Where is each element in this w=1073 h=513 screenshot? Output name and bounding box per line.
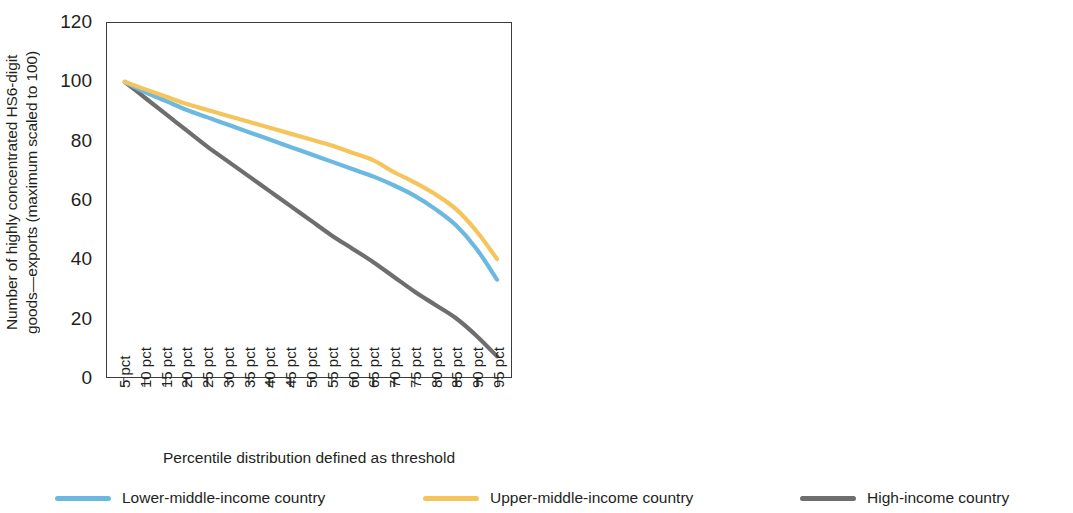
- y-axis-tick-label: 120: [50, 11, 92, 33]
- panel-exports: Number of highly concentrated HS6-digit …: [0, 0, 535, 470]
- legend-item-lower-middle-income: Lower-middle-income country: [55, 486, 325, 510]
- x-axis-tick-label: 10 pct: [136, 347, 153, 388]
- x-axis-tick-label: 55 pct: [323, 347, 340, 388]
- x-axis-tick-label: 15 pct: [157, 347, 174, 388]
- line-series: [125, 82, 497, 356]
- legend-item-high-income: High-income country: [800, 486, 1009, 510]
- y-axis-tick-label: 100: [50, 70, 92, 92]
- x-axis-tick-label: 50 pct: [303, 347, 320, 388]
- x-axis-tick-label: 35 pct: [240, 347, 257, 388]
- y-axis-label-exports: Number of highly concentrated HS6-digit …: [2, 0, 42, 385]
- x-axis-tick-label: 60 pct: [344, 347, 361, 388]
- legend-item-upper-middle-income: Upper-middle-income country: [423, 486, 693, 510]
- legend-label-upper-middle-income: Upper-middle-income country: [490, 489, 693, 507]
- x-axis-title-exports: Percentile distribution defined as thres…: [106, 449, 512, 467]
- x-axis-tick-label: 30 pct: [219, 347, 236, 388]
- chart-legend: Lower-middle-income country Upper-middle…: [0, 486, 1073, 513]
- x-axis-tick-label: 70 pct: [386, 347, 403, 388]
- legend-label-lower-middle-income: Lower-middle-income country: [122, 489, 325, 507]
- y-axis-tick-label: 60: [50, 189, 92, 211]
- y-axis-tick-label: 40: [50, 248, 92, 270]
- line-series: [125, 82, 497, 280]
- x-axis-tick-label: 75 pct: [406, 347, 423, 388]
- legend-swatch-lower-middle-income: [55, 496, 111, 501]
- chart-figure: Number of highly concentrated HS6-digit …: [0, 0, 1073, 513]
- panel-imports: Number of highly concentrated HS6-digit …: [540, 0, 1073, 470]
- x-axis-tick-label: 95 pct: [490, 347, 507, 388]
- y-axis-ticks-exports: 020406080100120: [44, 0, 92, 400]
- x-axis-tick-label: 45 pct: [282, 347, 299, 388]
- x-axis-tick-label: 20 pct: [178, 347, 195, 388]
- x-axis-tick-label: 90 pct: [469, 347, 486, 388]
- x-axis-tick-label: 85 pct: [448, 347, 465, 388]
- legend-swatch-upper-middle-income: [423, 496, 479, 501]
- y-axis-tick-label: 20: [50, 308, 92, 330]
- legend-label-high-income: High-income country: [867, 489, 1009, 507]
- plot-lines-exports: [107, 23, 511, 377]
- legend-swatch-high-income: [800, 496, 856, 501]
- x-axis-tick-label: 65 pct: [365, 347, 382, 388]
- plot-area-exports: [106, 22, 512, 378]
- x-axis-tick-label: 25 pct: [199, 347, 216, 388]
- x-axis-tick-label: 80 pct: [427, 347, 444, 388]
- x-axis-tick-labels-exports: 5 pct10 pct15 pct20 pct25 pct30 pct35 pc…: [106, 388, 512, 450]
- y-axis-tick-label: 80: [50, 130, 92, 152]
- x-axis-tick-label: 5 pct: [116, 355, 133, 388]
- x-axis-tick-label: 40 pct: [261, 347, 278, 388]
- y-axis-tick-label: 0: [50, 367, 92, 389]
